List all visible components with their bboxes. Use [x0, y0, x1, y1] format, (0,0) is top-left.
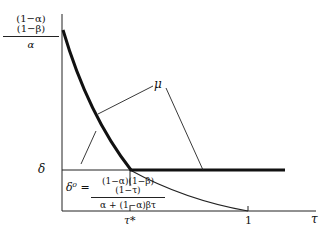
tick-label-tau-star: τ*: [124, 215, 136, 226]
delta-label: δ: [38, 163, 45, 175]
y-top-numerator: (1−α)(1−β): [3, 14, 59, 37]
y-axis-top-label: (1−α)(1−β) α: [3, 14, 59, 50]
x-axis-label: τ: [311, 213, 318, 225]
delta0-leader: [81, 131, 96, 164]
formula-denominator: α + (1−α)βτ: [91, 198, 165, 210]
mu-label: μ: [154, 78, 162, 90]
mu-curve-decreasing: [63, 30, 131, 170]
formula-numerator: (1−α)(1−β)(1−τ): [91, 177, 165, 198]
mu-leader-left: [98, 86, 153, 114]
mu-leader-right: [166, 88, 203, 170]
delta0-formula: (1−α)(1−β)(1−τ) α + (1−α)βτ: [91, 177, 165, 210]
y-top-denominator: α: [3, 37, 59, 50]
tick-label-one: 1: [245, 215, 252, 226]
formula-lhs: δ⁰ =: [66, 182, 90, 193]
